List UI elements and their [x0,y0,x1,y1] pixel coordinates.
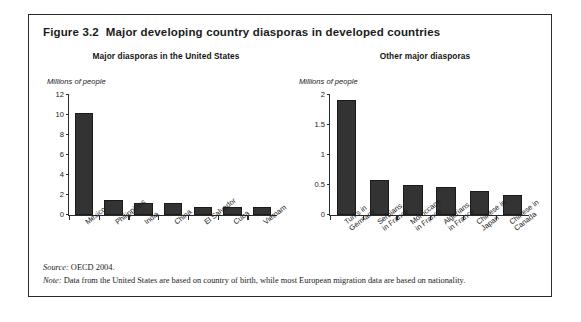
bar-slot [330,95,363,215]
y-axis-tick-mark [66,134,70,135]
x-axis-label-slot: El Salvador [188,215,218,225]
y-axis-unit-label-left: Millions of people [47,77,106,86]
figure-container: Figure 3.2Major developing country diasp… [28,14,552,297]
note-label: Note: [43,276,62,285]
bar-slot [396,95,429,215]
bar-slot [69,95,99,215]
bar-slot [158,95,188,215]
y-axis-tick-mark [327,94,331,95]
y-axis-tick-mark [327,184,331,185]
y-axis-tick-mark [66,154,70,155]
x-axis-labels-right: Turks inGermanySerbiansin FranceMoroccan… [330,215,529,225]
figure-title-text: Major developing country diasporas in de… [106,26,440,38]
figure-footer: Source: OECD 2004. Note: Data from the U… [43,261,537,287]
bar-slot [430,95,463,215]
x-axis-label-slot: Cuba [218,215,248,225]
x-axis-label-slot: Mexico [69,215,99,225]
x-axis-label-slot: Turks inGermany [330,215,363,225]
y-axis-tick-mark [66,194,70,195]
x-axis-label-slot: Algeriansin France [430,215,463,225]
x-axis-labels-left: MexicoPhilippinesIndiaChinaEl SalvadorCu… [69,215,277,225]
figure-note: Note: Data from the United States are ba… [43,274,537,287]
figure-source: Source: OECD 2004. [43,261,537,274]
x-axis-label-slot: Serbiansin France [363,215,396,225]
plot-area-left: 024681012MexicoPhilippinesIndiaChinaEl S… [68,95,277,216]
bar-slot [247,95,277,215]
x-axis-label-slot: India [128,215,158,225]
chart-subtitle-left: Major diasporas in the United States [35,51,297,61]
chart-subtitle-right: Other major diasporas [291,51,549,61]
bar-slot [363,95,396,215]
y-axis-tick-mark [327,154,331,155]
source-label: Source: [43,263,69,272]
bar-slot [463,95,496,215]
source-text: OECD 2004. [69,263,115,272]
figure-title: Figure 3.2Major developing country diasp… [43,26,440,38]
x-axis-label-slot: Chinese inJapan [463,215,496,225]
bar-group-right [330,95,529,215]
bar-slot [99,95,129,215]
chart-panel-other: Other major diasporas Millions of people… [291,51,549,256]
x-axis-label-slot: Chinese inCanada [496,215,529,225]
bar [337,100,356,215]
bar-slot [128,95,158,215]
y-axis-tick-mark [327,124,331,125]
y-axis-tick-mark [66,94,70,95]
note-text: Data from the United States are based on… [62,276,466,285]
y-axis-unit-label-right: Millions of people [299,77,358,86]
figure-number: Figure 3.2 [43,26,99,38]
x-axis-label-slot: China [158,215,188,225]
x-axis-label-slot: Moroccansin France [396,215,429,225]
plot-area-right: 00.511.52Turks inGermanySerbiansin Franc… [329,95,529,216]
y-axis-tick-mark [66,114,70,115]
bar [75,113,93,215]
x-axis-label-slot: Philippines [99,215,129,225]
bar-group-left [69,95,277,215]
bar-slot [188,95,218,215]
x-axis-label-slot: Vietnam [247,215,277,225]
chart-panel-united-states: Major diasporas in the United States Mil… [35,51,297,256]
y-axis-tick-mark [66,174,70,175]
